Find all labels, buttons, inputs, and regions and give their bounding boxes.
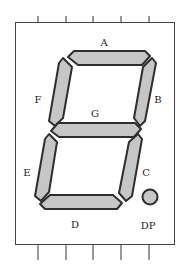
- segment-b: [134, 58, 156, 126]
- label-f: F: [35, 94, 42, 105]
- label-b: B: [154, 94, 161, 105]
- segment-a: [68, 51, 150, 65]
- segment-e: [35, 134, 57, 201]
- bottom-pins: [38, 245, 149, 260]
- label-dp: DP: [141, 220, 156, 231]
- seven-segment-diagram: A B C D E F G DP: [0, 0, 187, 274]
- label-d: D: [71, 219, 79, 230]
- label-g: G: [91, 108, 99, 119]
- segment-c: [119, 134, 142, 201]
- segment-g: [51, 123, 141, 137]
- segment-d: [40, 195, 122, 209]
- label-e: E: [23, 167, 30, 178]
- label-a: A: [99, 37, 108, 48]
- decimal-point: [143, 190, 158, 205]
- segment-f: [49, 58, 72, 126]
- top-pins: [38, 16, 149, 22]
- label-c: C: [142, 167, 150, 178]
